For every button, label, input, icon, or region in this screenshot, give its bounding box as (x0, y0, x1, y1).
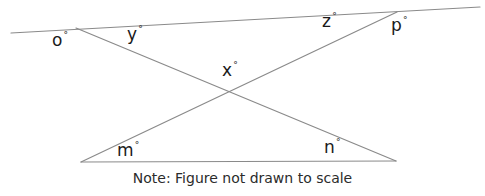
degree-icon: ° (138, 24, 143, 34)
angle-label-o: o° (52, 32, 67, 49)
angle-label-o-text: o (52, 30, 63, 50)
angle-label-z-text: z (322, 11, 331, 31)
angle-label-z: z° (322, 13, 336, 30)
angle-label-n-text: n (324, 137, 335, 157)
angle-label-x-text: x (222, 60, 232, 80)
geometry-figure: o° y° z° p° x° m° n° Note: Figure not dr… (0, 0, 485, 196)
degree-icon: ° (64, 30, 69, 40)
upper-line (11, 7, 480, 33)
angle-label-p: p° (391, 17, 407, 34)
angle-label-x: x° (222, 62, 237, 79)
angle-label-m: m° (117, 142, 138, 159)
angle-label-m-text: m (117, 140, 134, 160)
degree-icon: ° (403, 15, 408, 25)
angle-label-y-text: y (127, 24, 137, 44)
figure-note: Note: Figure not drawn to scale (0, 170, 485, 186)
angle-label-p-text: p (391, 15, 402, 35)
degree-icon: ° (233, 60, 238, 70)
degree-icon: ° (135, 140, 140, 150)
degree-icon: ° (332, 11, 337, 21)
angle-label-y: y° (127, 26, 142, 43)
base-line (81, 161, 396, 162)
degree-icon: ° (336, 137, 341, 147)
angle-label-n: n° (324, 139, 340, 156)
geometry-lines (0, 0, 485, 196)
